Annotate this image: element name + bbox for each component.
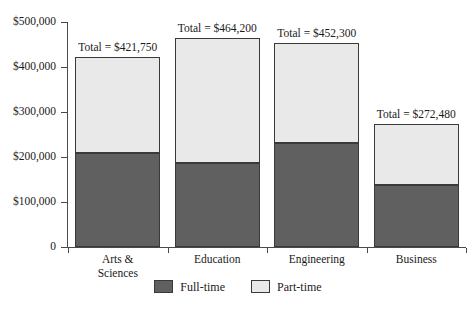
bar-total-label: Total = $464,200	[178, 22, 257, 34]
bar-engineering[interactable]: Total = $452,300	[274, 43, 359, 247]
x-axis-tick	[267, 248, 268, 253]
bar-segment-part-time[interactable]	[175, 38, 260, 163]
legend-label: Part-time	[277, 281, 322, 293]
bar-business[interactable]: Total = $272,480	[374, 124, 459, 247]
legend-item-full-time[interactable]: Full-time	[154, 280, 225, 293]
legend-swatch-icon	[251, 280, 270, 293]
x-axis-category-label: Arts &Sciences	[98, 253, 138, 280]
x-axis-category-label: Engineering	[289, 253, 345, 267]
y-axis-tick-label: $200,000	[13, 151, 56, 163]
y-axis-tick-label: $500,000	[13, 16, 56, 28]
bar-segment-full-time[interactable]	[374, 185, 459, 247]
x-axis-category-label: Education	[194, 253, 241, 267]
chart-legend: Full-timePart-time	[0, 280, 476, 293]
bar-total-label: Total = $452,300	[277, 27, 356, 39]
legend-item-part-time[interactable]: Part-time	[251, 280, 322, 293]
y-axis-tick-label: $300,000	[13, 106, 56, 118]
y-axis-tick-label: $100,000	[13, 196, 56, 208]
bar-education[interactable]: Total = $464,200	[175, 38, 260, 247]
bar-segment-part-time[interactable]	[75, 57, 160, 152]
bar-arts-sciences[interactable]: Total = $421,750	[75, 57, 160, 247]
y-axis-line	[67, 22, 68, 248]
stacked-bar-chart: $500,000$400,000$300,000$200,000$100,000…	[0, 0, 476, 309]
bar-segment-part-time[interactable]	[274, 43, 359, 142]
x-axis-tick	[466, 248, 467, 253]
x-axis-tick	[68, 248, 69, 253]
bar-segment-full-time[interactable]	[75, 153, 160, 248]
y-axis-tick-label: $400,000	[13, 61, 56, 73]
x-axis-tick	[168, 248, 169, 253]
bar-total-label: Total = $272,480	[377, 108, 456, 120]
bar-segment-full-time[interactable]	[175, 163, 260, 247]
y-axis-tick-label: 0	[50, 241, 56, 253]
x-axis-tick	[367, 248, 368, 253]
legend-label: Full-time	[180, 281, 225, 293]
bar-segment-part-time[interactable]	[374, 124, 459, 185]
x-axis-category-label: Business	[396, 253, 437, 267]
bar-segment-full-time[interactable]	[274, 143, 359, 247]
legend-swatch-icon	[154, 280, 173, 293]
bar-total-label: Total = $421,750	[78, 41, 157, 53]
